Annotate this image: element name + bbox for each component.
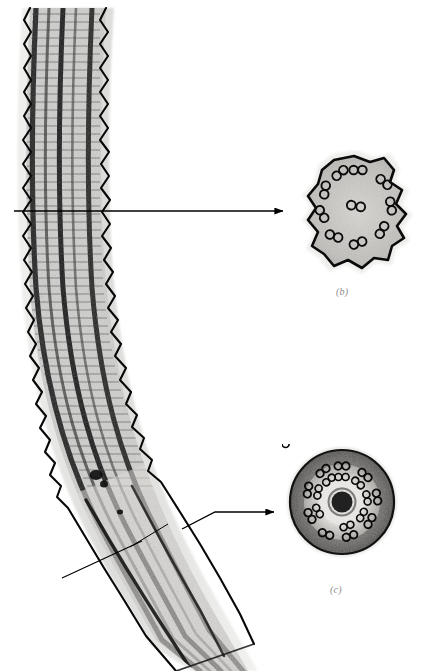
- panel-label-c: (c): [330, 584, 342, 595]
- panel-b-cross-section: [296, 150, 422, 280]
- figure-root: (b) (c): [0, 0, 422, 671]
- central-core-c: [329, 489, 356, 516]
- panel-c-cross-section: [282, 444, 402, 566]
- flagellum-body: [0, 0, 260, 671]
- panel-label-b: (b): [336, 286, 348, 297]
- panel-a-longitudinal-section: [0, 0, 260, 671]
